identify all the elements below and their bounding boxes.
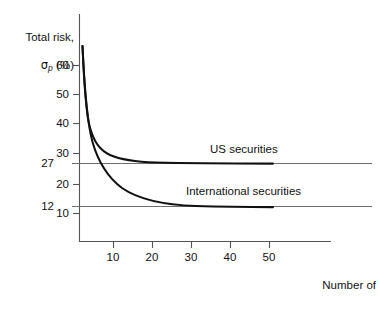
reference-label-27: 27 xyxy=(28,157,54,169)
y-tick-label-40: 40 xyxy=(41,117,69,129)
y-axis-title-line1: Total risk, xyxy=(25,31,74,43)
y-tick-label-60: 60 xyxy=(41,59,69,71)
series-label-international-securities: International securities xyxy=(186,185,301,197)
y-tick-label-50: 50 xyxy=(41,88,69,100)
y-tick-label-20: 20 xyxy=(41,178,69,190)
x-axis-title-line1: Number of xyxy=(258,278,376,292)
x-tick-label-30: 30 xyxy=(178,251,204,263)
x-tick-label-40: 40 xyxy=(217,251,243,263)
reference-label-12: 12 xyxy=(28,200,54,212)
x-tick-label-10: 10 xyxy=(100,251,126,263)
series-label-us-securities: US securities xyxy=(210,143,278,155)
risk-diversification-chart: Total risk, σp (%) 60 50 40 30 20 10 27 … xyxy=(0,0,380,310)
x-axis-title: Number of securities in portfolio xyxy=(258,250,376,310)
curve-international-securities xyxy=(83,46,274,207)
x-tick-label-20: 20 xyxy=(139,251,165,263)
